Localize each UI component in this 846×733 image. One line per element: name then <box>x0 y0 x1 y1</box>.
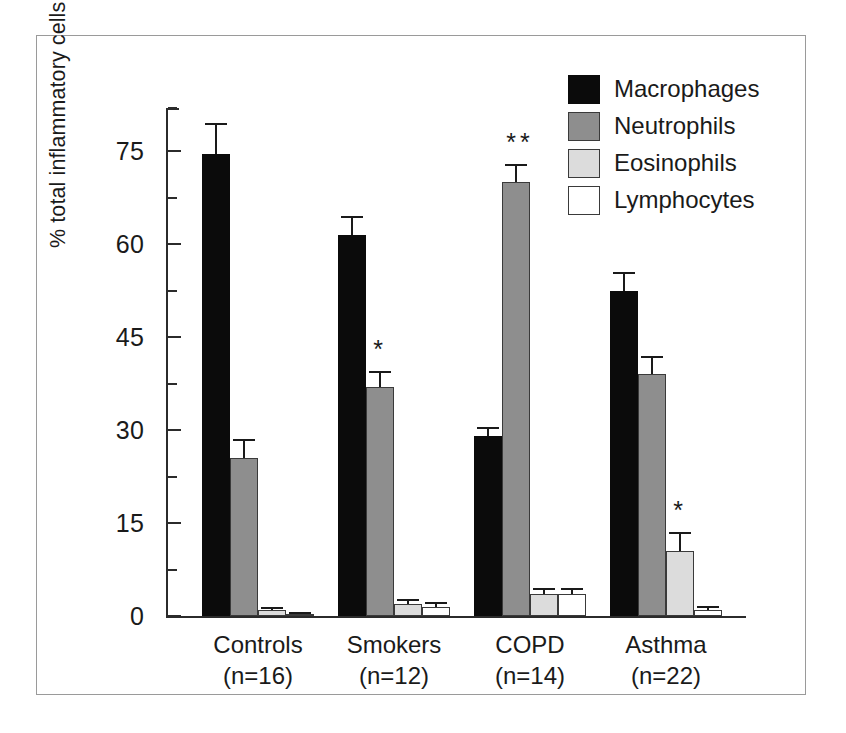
group-sample-size: (n=14) <box>495 661 565 692</box>
y-tick-label: 45 <box>116 323 144 352</box>
significance-marker: * <box>673 498 687 523</box>
bar-eosinophils-smokers <box>394 604 422 616</box>
legend-label: Macrophages <box>614 75 759 103</box>
bar-eosinophils-asthma <box>666 551 694 616</box>
x-axis-line <box>166 616 746 618</box>
error-bar-cap <box>233 439 255 441</box>
group-sample-size: (n=16) <box>213 661 302 692</box>
group-sample-size: (n=12) <box>347 661 442 692</box>
legend-swatch-lymphocytes <box>568 186 600 215</box>
error-bar-stem <box>651 356 653 375</box>
bar-macrophages-asthma <box>610 291 638 616</box>
y-tick-major <box>168 150 181 152</box>
error-bar-cap <box>369 371 391 373</box>
legend-item-neutrophils: Neutrophils <box>568 110 759 142</box>
bar-lymphocytes-asthma <box>694 610 722 616</box>
group-name: Controls <box>213 631 302 658</box>
error-bar-cap <box>641 356 663 358</box>
significance-marker: * <box>373 337 387 362</box>
y-tick-major <box>168 615 181 617</box>
chart-legend: MacrophagesNeutrophilsEosinophilsLymphoc… <box>568 73 759 221</box>
bar-lymphocytes-smokers <box>422 607 450 616</box>
legend-label: Eosinophils <box>614 149 737 177</box>
legend-swatch-eosinophils <box>568 149 600 178</box>
y-tick-major <box>168 243 181 245</box>
error-bar-stem <box>215 123 217 154</box>
group-name: COPD <box>495 631 564 658</box>
error-bar-stem <box>623 272 625 291</box>
y-tick-label: 30 <box>116 416 144 445</box>
y-axis-line <box>166 108 168 618</box>
y-axis-tick-labels: 01530456075 <box>26 108 166 618</box>
legend-item-lymphocytes: Lymphocytes <box>568 184 759 216</box>
bar-neutrophils-controls <box>230 458 258 616</box>
error-bar-cap <box>561 588 583 590</box>
y-tick-major <box>168 429 181 431</box>
group-name: Asthma <box>625 631 706 658</box>
x-axis-group-label: COPD(n=14) <box>495 630 565 691</box>
error-bar-stem <box>351 216 353 235</box>
y-tick-minor <box>168 569 177 571</box>
error-bar-stem <box>679 532 681 551</box>
x-axis-group-label: Asthma(n=22) <box>625 630 706 691</box>
bar-neutrophils-smokers <box>366 387 394 616</box>
error-bar-stem <box>243 439 245 458</box>
group-sample-size: (n=22) <box>625 661 706 692</box>
error-bar-cap <box>505 164 527 166</box>
y-tick-minor <box>168 107 177 109</box>
y-tick-minor <box>168 383 177 385</box>
error-bar-cap <box>289 612 311 614</box>
bar-eosinophils-copd <box>530 594 558 616</box>
error-bar-cap <box>669 532 691 534</box>
error-bar-cap <box>397 599 419 601</box>
y-tick-major <box>168 336 181 338</box>
y-tick-minor <box>168 290 177 292</box>
bar-lymphocytes-copd <box>558 594 586 616</box>
error-bar-cap <box>261 607 283 609</box>
x-axis-group-label: Controls(n=16) <box>213 630 302 691</box>
legend-swatch-macrophages <box>568 75 600 104</box>
legend-swatch-neutrophils <box>568 112 600 141</box>
y-tick-label: 75 <box>116 137 144 166</box>
legend-item-eosinophils: Eosinophils <box>568 147 759 179</box>
error-bar-cap <box>533 588 555 590</box>
figure-root: % total inflammatory cells 01530456075 *… <box>0 0 846 733</box>
y-tick-label: 0 <box>130 602 144 631</box>
y-tick-minor <box>168 197 177 199</box>
error-bar-cap <box>205 123 227 125</box>
error-bar-cap <box>697 606 719 608</box>
bar-neutrophils-copd <box>502 182 530 616</box>
significance-marker: ** <box>506 130 533 155</box>
bar-macrophages-smokers <box>338 235 366 616</box>
group-name: Smokers <box>347 631 442 658</box>
error-bar-stem <box>515 164 517 183</box>
bar-eosinophils-controls <box>258 610 286 616</box>
y-tick-minor <box>168 476 177 478</box>
error-bar-cap <box>613 272 635 274</box>
y-tick-major <box>168 522 181 524</box>
bar-macrophages-controls <box>202 154 230 616</box>
error-bar-cap <box>341 216 363 218</box>
bar-neutrophils-asthma <box>638 374 666 616</box>
error-bar-cap <box>477 427 499 429</box>
x-axis-group-label: Smokers(n=12) <box>347 630 442 691</box>
legend-label: Neutrophils <box>614 112 735 140</box>
error-bar-cap <box>425 602 447 604</box>
legend-label: Lymphocytes <box>614 186 755 214</box>
legend-item-macrophages: Macrophages <box>568 73 759 105</box>
y-tick-label: 15 <box>116 509 144 538</box>
error-bar-stem <box>379 371 381 386</box>
bar-macrophages-copd <box>474 436 502 616</box>
y-tick-label: 60 <box>116 230 144 259</box>
